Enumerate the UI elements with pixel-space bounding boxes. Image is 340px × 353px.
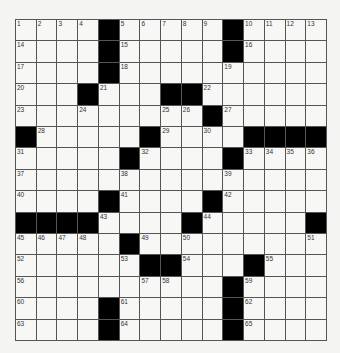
crossword-cell[interactable] <box>140 41 160 61</box>
crossword-cell[interactable] <box>57 41 77 61</box>
crossword-cell[interactable] <box>37 63 57 83</box>
crossword-cell[interactable]: 50 <box>182 234 202 254</box>
crossword-cell[interactable]: 30 <box>203 127 223 147</box>
crossword-cell[interactable]: 1 <box>16 20 36 40</box>
crossword-cell[interactable] <box>37 106 57 126</box>
crossword-cell[interactable] <box>306 320 326 340</box>
crossword-cell[interactable]: 2 <box>37 20 57 40</box>
crossword-cell[interactable]: 37 <box>16 170 36 190</box>
crossword-cell[interactable] <box>286 63 306 83</box>
crossword-cell[interactable]: 36 <box>306 148 326 168</box>
crossword-cell[interactable] <box>78 148 98 168</box>
crossword-cell[interactable] <box>286 277 306 297</box>
crossword-cell[interactable]: 49 <box>140 234 160 254</box>
crossword-cell[interactable] <box>37 255 57 275</box>
crossword-cell[interactable] <box>182 127 202 147</box>
crossword-cell[interactable] <box>286 84 306 104</box>
crossword-cell[interactable] <box>286 320 306 340</box>
crossword-cell[interactable] <box>203 277 223 297</box>
crossword-cell[interactable] <box>203 170 223 190</box>
crossword-cell[interactable]: 14 <box>16 41 36 61</box>
crossword-cell[interactable] <box>203 255 223 275</box>
crossword-cell[interactable]: 54 <box>182 255 202 275</box>
crossword-cell[interactable]: 38 <box>120 170 140 190</box>
crossword-cell[interactable]: 58 <box>161 277 181 297</box>
crossword-cell[interactable]: 44 <box>203 213 223 233</box>
crossword-cell[interactable] <box>161 63 181 83</box>
crossword-cell[interactable]: 47 <box>57 234 77 254</box>
crossword-cell[interactable] <box>161 41 181 61</box>
crossword-cell[interactable] <box>223 127 243 147</box>
crossword-cell[interactable] <box>286 234 306 254</box>
crossword-cell[interactable]: 31 <box>16 148 36 168</box>
crossword-cell[interactable] <box>182 170 202 190</box>
crossword-cell[interactable] <box>78 127 98 147</box>
crossword-cell[interactable]: 15 <box>120 41 140 61</box>
crossword-cell[interactable]: 57 <box>140 277 160 297</box>
crossword-cell[interactable] <box>306 84 326 104</box>
crossword-cell[interactable] <box>78 41 98 61</box>
crossword-cell[interactable] <box>265 320 285 340</box>
crossword-cell[interactable] <box>286 106 306 126</box>
crossword-cell[interactable] <box>203 320 223 340</box>
crossword-cell[interactable] <box>265 63 285 83</box>
crossword-cell[interactable]: 60 <box>16 298 36 318</box>
crossword-cell[interactable] <box>182 63 202 83</box>
crossword-cell[interactable] <box>57 277 77 297</box>
crossword-cell[interactable] <box>265 106 285 126</box>
crossword-cell[interactable] <box>161 298 181 318</box>
crossword-cell[interactable] <box>265 191 285 211</box>
crossword-cell[interactable] <box>182 191 202 211</box>
crossword-cell[interactable]: 3 <box>57 20 77 40</box>
crossword-cell[interactable] <box>286 170 306 190</box>
crossword-cell[interactable] <box>140 213 160 233</box>
crossword-cell[interactable]: 45 <box>16 234 36 254</box>
crossword-cell[interactable] <box>99 106 119 126</box>
crossword-cell[interactable] <box>161 148 181 168</box>
crossword-cell[interactable] <box>57 127 77 147</box>
crossword-cell[interactable] <box>244 84 264 104</box>
crossword-cell[interactable] <box>286 255 306 275</box>
crossword-cell[interactable] <box>161 320 181 340</box>
crossword-cell[interactable] <box>120 277 140 297</box>
crossword-cell[interactable] <box>203 234 223 254</box>
crossword-cell[interactable]: 41 <box>120 191 140 211</box>
crossword-cell[interactable] <box>306 41 326 61</box>
crossword-cell[interactable] <box>244 106 264 126</box>
crossword-cell[interactable] <box>99 255 119 275</box>
crossword-cell[interactable] <box>78 320 98 340</box>
crossword-cell[interactable]: 25 <box>161 106 181 126</box>
crossword-cell[interactable]: 62 <box>244 298 264 318</box>
crossword-cell[interactable]: 52 <box>16 255 36 275</box>
crossword-cell[interactable]: 46 <box>37 234 57 254</box>
crossword-cell[interactable] <box>203 148 223 168</box>
crossword-cell[interactable] <box>265 84 285 104</box>
crossword-cell[interactable] <box>99 127 119 147</box>
crossword-cell[interactable]: 11 <box>265 20 285 40</box>
crossword-cell[interactable]: 65 <box>244 320 264 340</box>
crossword-cell[interactable]: 55 <box>265 255 285 275</box>
crossword-cell[interactable] <box>286 191 306 211</box>
crossword-cell[interactable] <box>265 170 285 190</box>
crossword-cell[interactable] <box>286 213 306 233</box>
crossword-cell[interactable]: 17 <box>16 63 36 83</box>
crossword-cell[interactable] <box>78 191 98 211</box>
crossword-cell[interactable] <box>182 148 202 168</box>
crossword-cell[interactable] <box>286 298 306 318</box>
crossword-cell[interactable] <box>140 298 160 318</box>
crossword-cell[interactable] <box>161 234 181 254</box>
crossword-cell[interactable] <box>120 127 140 147</box>
crossword-cell[interactable] <box>99 277 119 297</box>
crossword-cell[interactable] <box>99 148 119 168</box>
crossword-cell[interactable] <box>140 63 160 83</box>
crossword-cell[interactable] <box>182 41 202 61</box>
crossword-cell[interactable]: 12 <box>286 20 306 40</box>
crossword-cell[interactable] <box>223 255 243 275</box>
crossword-cell[interactable] <box>306 277 326 297</box>
crossword-cell[interactable] <box>306 170 326 190</box>
crossword-cell[interactable] <box>120 106 140 126</box>
crossword-cell[interactable]: 13 <box>306 20 326 40</box>
crossword-cell[interactable] <box>182 298 202 318</box>
crossword-cell[interactable]: 61 <box>120 298 140 318</box>
crossword-cell[interactable]: 9 <box>203 20 223 40</box>
